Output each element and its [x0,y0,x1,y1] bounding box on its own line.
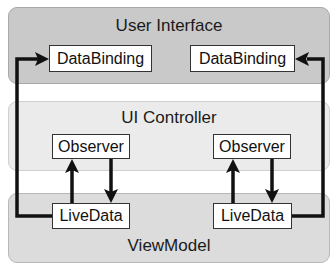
user-interface-title: User Interface [9,16,329,36]
observer-left-node: Observer [52,134,130,159]
databinding-left-node: DataBinding [49,45,152,72]
livedata-left-node: LiveData [52,203,130,229]
databinding-right-node: DataBinding [190,45,295,72]
livedata-right-node: LiveData [213,203,292,229]
observer-right-node: Observer [213,134,291,159]
ui-controller-title: UI Controller [9,108,329,128]
viewmodel-title: ViewModel [9,236,329,256]
